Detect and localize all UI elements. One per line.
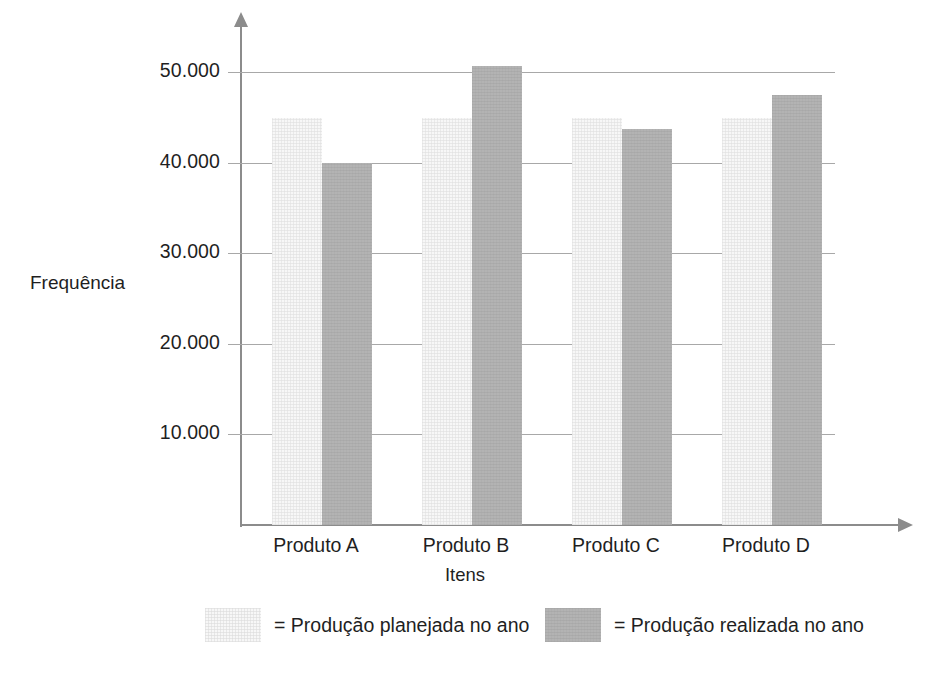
legend-item-planejada: = Produção planejada no ano bbox=[205, 608, 529, 642]
bar-planejada bbox=[422, 118, 472, 525]
y-axis-title: Frequência bbox=[30, 272, 125, 294]
legend-label-planejada: = Produção planejada no ano bbox=[274, 614, 529, 637]
bar-chart-figure: Frequência 10.00020.00030.00040.00050.00… bbox=[0, 0, 930, 687]
plot-area bbox=[241, 18, 841, 525]
bar-realizada bbox=[772, 95, 822, 525]
x-axis-title: Itens bbox=[0, 564, 930, 586]
chart-legend: = Produção planejada no ano = Produção r… bbox=[0, 608, 930, 668]
bar-realizada bbox=[472, 66, 522, 525]
legend-item-realizada: = Produção realizada no ano bbox=[545, 608, 864, 642]
legend-swatch-realizada-icon bbox=[545, 608, 601, 642]
bar-realizada bbox=[622, 129, 672, 525]
bar-realizada bbox=[322, 163, 372, 525]
bar-planejada bbox=[272, 118, 322, 525]
y-tick-label: 20.000 bbox=[70, 331, 220, 354]
category-label: Produto D bbox=[691, 534, 841, 557]
category-label: Produto B bbox=[391, 534, 541, 557]
y-tick-label: 40.000 bbox=[70, 150, 220, 173]
x-axis-arrow-icon bbox=[898, 518, 913, 532]
y-tick-label: 30.000 bbox=[70, 240, 220, 263]
category-label: Produto A bbox=[241, 534, 391, 557]
legend-label-realizada: = Produção realizada no ano bbox=[614, 614, 864, 637]
bar-planejada bbox=[572, 118, 622, 525]
y-tick-label: 50.000 bbox=[70, 59, 220, 82]
category-label: Produto C bbox=[541, 534, 691, 557]
y-tick-label: 10.000 bbox=[70, 421, 220, 444]
bar-planejada bbox=[722, 118, 772, 525]
legend-swatch-planejada-icon bbox=[205, 608, 261, 642]
